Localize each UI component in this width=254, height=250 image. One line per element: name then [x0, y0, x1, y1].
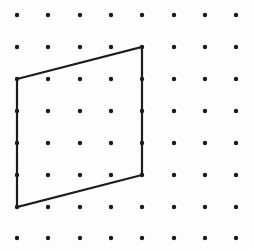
- lattice-dot: [203, 45, 207, 49]
- lattice-dot: [15, 236, 19, 240]
- lattice-dot: [109, 109, 113, 113]
- lattice-dot: [46, 173, 50, 177]
- lattice-dot: [109, 173, 113, 177]
- lattice-dot: [172, 77, 176, 81]
- lattice-dot: [203, 141, 207, 145]
- figure-background: [0, 0, 254, 250]
- lattice-dot: [172, 13, 176, 17]
- lattice-dot: [140, 205, 144, 209]
- lattice-dot: [172, 236, 176, 240]
- figure-canvas: [0, 0, 254, 250]
- lattice-dot: [78, 109, 82, 113]
- lattice-dot: [203, 77, 207, 81]
- lattice-dot: [172, 109, 176, 113]
- lattice-dot: [109, 141, 113, 145]
- lattice-dot: [172, 205, 176, 209]
- lattice-dot: [46, 205, 50, 209]
- lattice-dot: [109, 45, 113, 49]
- lattice-dot: [78, 77, 82, 81]
- lattice-dot: [46, 45, 50, 49]
- lattice-dot: [234, 109, 238, 113]
- lattice-dot: [78, 173, 82, 177]
- dot-grid-figure: [0, 0, 254, 250]
- lattice-dot: [172, 45, 176, 49]
- lattice-dot: [109, 13, 113, 17]
- lattice-dot: [46, 141, 50, 145]
- lattice-dot: [46, 13, 50, 17]
- lattice-dot: [46, 109, 50, 113]
- lattice-dot: [234, 205, 238, 209]
- lattice-dot: [203, 205, 207, 209]
- lattice-dot: [140, 236, 144, 240]
- lattice-dot: [234, 173, 238, 177]
- lattice-dot: [15, 45, 19, 49]
- lattice-dot: [140, 13, 144, 17]
- lattice-dot: [203, 109, 207, 113]
- lattice-dot: [46, 236, 50, 240]
- lattice-dot: [109, 236, 113, 240]
- lattice-dot: [109, 77, 113, 81]
- lattice-dot: [172, 141, 176, 145]
- lattice-dot: [78, 141, 82, 145]
- lattice-dot: [78, 236, 82, 240]
- lattice-dot: [172, 173, 176, 177]
- lattice-dot: [78, 13, 82, 17]
- lattice-dot: [234, 13, 238, 17]
- lattice-dot: [15, 13, 19, 17]
- lattice-dot: [46, 77, 50, 81]
- lattice-dot: [109, 205, 113, 209]
- lattice-dot: [78, 45, 82, 49]
- lattice-dot: [234, 77, 238, 81]
- lattice-dot: [203, 13, 207, 17]
- lattice-dot: [234, 236, 238, 240]
- lattice-dot: [203, 236, 207, 240]
- lattice-dot: [78, 205, 82, 209]
- lattice-dot: [203, 173, 207, 177]
- lattice-dot: [234, 141, 238, 145]
- lattice-dot: [234, 45, 238, 49]
